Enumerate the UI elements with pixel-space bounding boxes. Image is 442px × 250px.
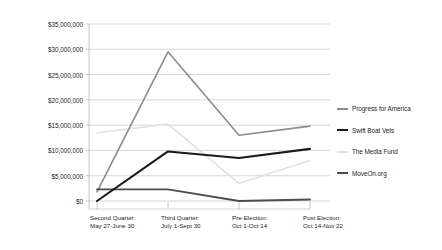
x-axis-tick-label-line: Second Quarter: [90, 214, 135, 222]
x-axis-tick-label: Post Election:Oct 14-Nov 22 [303, 214, 343, 230]
legend-label: MoveOn.org [352, 170, 387, 177]
legend-item[interactable]: Progress for America [337, 105, 411, 112]
legend-label: Progress for America [352, 105, 411, 112]
legend-swatch-icon [337, 108, 348, 110]
line-chart: $35,000,000$30,000,000$25,000,000$20,000… [0, 0, 442, 250]
legend-item[interactable]: The Media Fund [337, 148, 398, 155]
series-line [97, 149, 310, 201]
legend-label: Swift Boat Vets [352, 127, 394, 134]
y-axis-tick-label: $5,000,000 [52, 172, 84, 179]
x-axis-tick-label: Second Quarter:May 27-June 30 [90, 214, 135, 230]
y-axis-tick-label: $0 [76, 198, 83, 205]
y-axis-tick-label: $35,000,000 [48, 21, 83, 28]
x-axis-tick-label-line: Pre-Election: [232, 214, 267, 222]
y-axis-tick-label: $25,000,000 [48, 71, 83, 78]
series-line [97, 189, 310, 201]
y-axis-tick-label: $15,000,000 [48, 122, 83, 129]
y-axis-tick-label: $10,000,000 [48, 147, 83, 154]
x-axis-tick-label-line: May 27-June 30 [90, 222, 135, 230]
legend-swatch-icon [337, 129, 348, 131]
x-axis-tick-label-line: Post Election: [303, 214, 343, 222]
x-axis-tick-label: Third Quarter:July 1-Sept 30 [161, 214, 201, 230]
legend-item[interactable]: Swift Boat Vets [337, 127, 394, 134]
x-axis-tick-label-line: Third Quarter: [161, 214, 201, 222]
legend-item[interactable]: MoveOn.org [337, 170, 387, 177]
x-axis-tick-label-line: Oct 1-Oct 14 [232, 222, 267, 230]
legend-swatch-icon [337, 172, 348, 174]
y-axis-tick-label: $30,000,000 [48, 46, 83, 53]
x-axis-tick-label-line: Oct 14-Nov 22 [303, 222, 343, 230]
legend-swatch-icon [337, 151, 348, 153]
y-axis-tick-label: $20,000,000 [48, 96, 83, 103]
x-axis-tick-label: Pre-Election:Oct 1-Oct 14 [232, 214, 267, 230]
x-axis-tick-label-line: July 1-Sept 30 [161, 222, 201, 230]
legend-label: The Media Fund [352, 148, 398, 155]
